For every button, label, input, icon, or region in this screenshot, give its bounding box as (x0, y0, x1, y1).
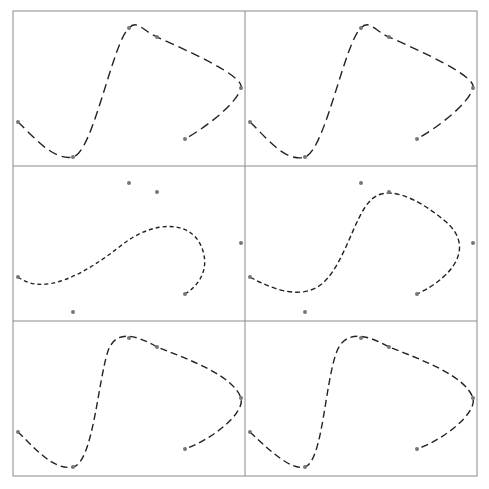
control-point-marker (239, 86, 243, 90)
control-point-marker (71, 155, 75, 159)
control-point-marker (387, 345, 391, 349)
spline-curve (18, 336, 241, 467)
control-point-marker (183, 292, 187, 296)
spline-curve (18, 226, 205, 294)
spline-curve (250, 336, 473, 467)
control-point-marker (387, 35, 391, 39)
spline-curve (250, 193, 460, 294)
spline-panel-r3c2 (248, 336, 475, 469)
spline-panel-grid (0, 0, 489, 489)
spline-curve (250, 25, 473, 158)
control-point-marker (71, 310, 75, 314)
control-point-marker (183, 447, 187, 451)
control-point-marker (155, 35, 159, 39)
control-point-marker (127, 26, 131, 30)
control-point-marker (387, 190, 391, 194)
control-point-marker (183, 137, 187, 141)
control-point-marker (248, 275, 252, 279)
control-point-marker (415, 447, 419, 451)
panel-frame (13, 11, 477, 476)
control-point-marker (127, 181, 131, 185)
control-point-marker (16, 120, 20, 124)
spline-curve (18, 25, 241, 158)
spline-panel-r3c1 (16, 336, 243, 469)
control-point-marker (155, 190, 159, 194)
control-point-marker (415, 137, 419, 141)
control-point-marker (359, 26, 363, 30)
control-point-marker (248, 430, 252, 434)
control-point-marker (155, 345, 159, 349)
control-point-marker (248, 120, 252, 124)
spline-panel-r2c2 (248, 181, 475, 314)
control-point-marker (303, 155, 307, 159)
control-point-marker (16, 430, 20, 434)
spline-panel-r1c1 (16, 25, 243, 159)
control-point-marker (471, 241, 475, 245)
spline-panel-r1c2 (248, 25, 475, 159)
control-point-marker (359, 181, 363, 185)
control-point-marker (415, 292, 419, 296)
control-point-marker (471, 86, 475, 90)
control-point-marker (127, 336, 131, 340)
control-point-marker (471, 396, 475, 400)
spline-panel-r2c1 (16, 181, 243, 314)
control-point-marker (359, 336, 363, 340)
control-point-marker (239, 241, 243, 245)
control-point-marker (71, 465, 75, 469)
control-point-marker (303, 310, 307, 314)
control-point-marker (16, 275, 20, 279)
control-point-marker (303, 465, 307, 469)
control-point-marker (239, 396, 243, 400)
